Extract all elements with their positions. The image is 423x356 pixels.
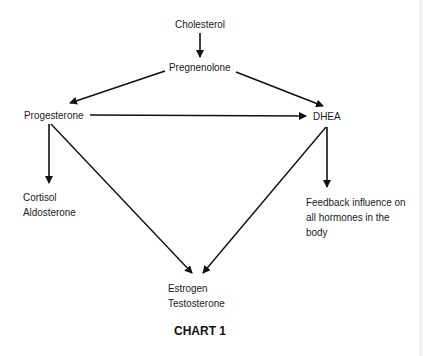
node-feedback-line2: all hormones in the	[306, 210, 390, 225]
arrow-pregnenolone-progesterone	[70, 71, 165, 103]
node-cortisol: Cortisol	[23, 190, 57, 205]
node-pregnenolone: Pregnenolone	[169, 60, 231, 75]
node-testosterone: Testosterone	[168, 296, 225, 311]
chart-caption: CHART 1	[174, 324, 226, 338]
arrow-progesterone-estrogen	[51, 124, 192, 273]
arrow-progesterone-dhea	[90, 115, 306, 116]
node-feedback-line1: Feedback influence on	[306, 195, 406, 210]
node-feedback-line3: body	[306, 225, 327, 240]
node-cholesterol: Cholesterol	[175, 17, 225, 32]
node-estrogen: Estrogen	[168, 281, 208, 296]
node-progesterone: Progesterone	[24, 108, 83, 123]
arrow-pregnenolone-dhea	[236, 72, 323, 106]
node-aldosterone: Aldosterone	[23, 205, 76, 220]
node-dhea: DHEA	[313, 109, 340, 124]
